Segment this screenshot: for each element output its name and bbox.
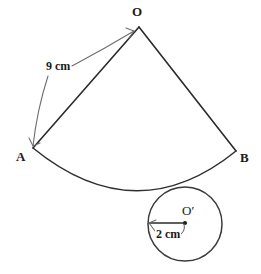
label-vertex-B: B	[240, 151, 249, 164]
label-circle-radius-2cm: 2 cm	[155, 228, 181, 240]
sector-side-OA	[33, 27, 139, 148]
sector-arc-AB	[33, 148, 236, 191]
geometry-figure: O A B O′ 9 cm 2 cm	[0, 0, 261, 274]
sector-radius-leader-upper	[72, 31, 134, 66]
circle-center-dot	[183, 221, 187, 225]
label-circle-center-O-prime: O′	[182, 204, 194, 217]
sector-side-OB	[139, 27, 236, 151]
sector-radius-leader-lower	[33, 76, 48, 146]
label-vertex-A: A	[16, 150, 25, 163]
figure-canvas	[0, 0, 261, 274]
label-apex-O: O	[132, 5, 142, 18]
label-sector-radius-9cm: 9 cm	[45, 60, 71, 72]
